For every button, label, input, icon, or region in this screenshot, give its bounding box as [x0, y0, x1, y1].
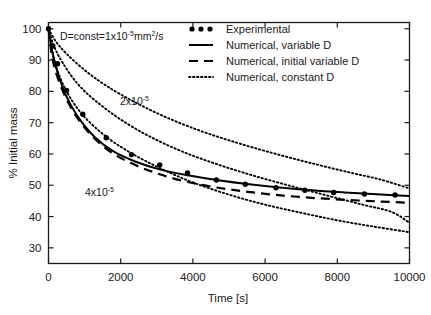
- legend-entry-initial-variable-d: Numerical, initial variable D: [189, 55, 359, 67]
- y-tick-label: 50: [29, 179, 42, 191]
- data-point-marker: [104, 135, 109, 140]
- annotation-4e5: 4x10-5: [85, 186, 114, 198]
- x-tick-label: 10000: [394, 271, 426, 283]
- data-point-marker: [243, 182, 248, 187]
- annotation-2e5: 2x10-5: [120, 95, 149, 107]
- annot-2e5-text: 2x10-5: [120, 95, 149, 107]
- data-point-marker: [214, 177, 219, 182]
- x-tick-label: 4000: [180, 271, 206, 283]
- y-tick-label: 80: [29, 85, 42, 97]
- data-point-marker: [331, 190, 336, 195]
- y-axis-tick-labels: 30405060708090100: [22, 23, 41, 254]
- x-tick-label: 0: [45, 271, 51, 283]
- x-tick-label: 8000: [325, 271, 351, 283]
- y-tick-label: 30: [29, 242, 42, 254]
- annotation-constant-d: D=const=1x10-5mm2/s: [60, 30, 164, 42]
- y-tick-label: 90: [29, 54, 42, 66]
- legend-entry-experimental: Experimental: [189, 23, 290, 35]
- data-point-marker: [129, 152, 134, 157]
- data-point-marker: [302, 188, 307, 193]
- data-point-marker: [157, 162, 162, 167]
- legend: Experimental Numerical, variable D Numer…: [189, 23, 359, 83]
- data-point-marker: [185, 170, 190, 175]
- legend-marker-dots: [189, 26, 212, 31]
- legend-label-experimental: Experimental: [226, 23, 290, 35]
- y-tick-label: 100: [22, 23, 41, 35]
- chart-figure: 30405060708090100 0200040006000800010000…: [0, 0, 431, 315]
- legend-label-constant-d: Numerical, constant D: [226, 71, 334, 83]
- x-tick-label: 2000: [108, 271, 134, 283]
- data-point-marker: [273, 185, 278, 190]
- x-tick-label: 6000: [252, 271, 278, 283]
- y-tick-label: 70: [29, 117, 42, 129]
- y-axis-title: % Initial mass: [7, 107, 19, 178]
- annot-4e5-text: 4x10-5: [85, 186, 114, 198]
- data-point-marker: [392, 192, 397, 197]
- series-path-1: [49, 29, 410, 196]
- data-point-marker: [80, 112, 85, 117]
- data-point-marker: [46, 26, 51, 31]
- y-tick-label: 60: [29, 148, 42, 160]
- data-point-marker: [55, 61, 60, 66]
- legend-entry-variable-d: Numerical, variable D: [189, 39, 331, 51]
- legend-label-initial-variable-d: Numerical, initial variable D: [226, 55, 359, 67]
- legend-entry-constant-d: Numerical, constant D: [189, 71, 334, 83]
- chart-canvas: 30405060708090100 0200040006000800010000…: [0, 0, 431, 315]
- data-point-marker: [362, 191, 367, 196]
- x-axis-title: Time [s]: [208, 292, 248, 304]
- series-path-3: [49, 29, 410, 189]
- x-axis-tick-labels: 0200040006000800010000: [45, 271, 425, 283]
- data-point-marker: [50, 43, 55, 48]
- y-tick-label: 40: [29, 211, 42, 223]
- annot-const-d-text: D=const=1x10-5mm2/s: [60, 30, 164, 42]
- legend-label-variable-d: Numerical, variable D: [226, 39, 331, 51]
- data-point-marker: [64, 88, 69, 93]
